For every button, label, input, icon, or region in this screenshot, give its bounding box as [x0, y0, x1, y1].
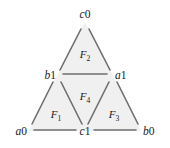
- diagram-canvas: c0 b1 a1 a0 c1 b0 F2 F4: [0, 0, 170, 148]
- face-index-F2: 2: [86, 54, 90, 63]
- triangle-diagram: c0 b1 a1 a0 c1 b0 F2 F4: [0, 0, 170, 148]
- vertex-index-c0: 0: [85, 8, 91, 20]
- vertex-label-b1: b1: [45, 69, 57, 81]
- vertex-label-c0: c0: [80, 8, 91, 20]
- face-index-F3: 3: [115, 114, 119, 123]
- vertex-index-a0: 0: [21, 125, 27, 137]
- vertex-index-a1: 1: [121, 69, 127, 81]
- vertex-label-a0: a0: [16, 125, 28, 137]
- vertex-label-a1: a1: [115, 69, 127, 81]
- face-index-F1: 1: [57, 114, 61, 123]
- vertex-label-b0: b0: [143, 125, 155, 137]
- vertex-index-c1: 1: [85, 125, 91, 137]
- vertex-index-b1: 1: [50, 69, 56, 81]
- vertex-index-b0: 0: [149, 125, 155, 137]
- face-index-F4: 4: [86, 96, 90, 105]
- vertex-label-c1: c1: [80, 125, 91, 137]
